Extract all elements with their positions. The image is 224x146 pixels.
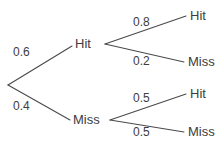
node-label-hit-hit: Hit (190, 9, 206, 22)
probability-label-miss-miss: 0.5 (133, 126, 150, 138)
node-label-miss-miss: Miss (188, 125, 215, 138)
probability-label-hit-hit: 0.8 (133, 16, 150, 28)
probability-tree-diagram: Hit Miss Hit Miss Hit Miss 0.6 0.4 0.8 0… (0, 0, 224, 146)
node-label-hit-miss: Miss (188, 55, 215, 68)
probability-label-miss-hit: 0.5 (133, 92, 150, 104)
node-label-hit-level1: Hit (75, 37, 91, 50)
probability-label-hit-miss: 0.2 (133, 55, 150, 67)
probability-label-miss: 0.4 (13, 100, 30, 112)
node-label-miss-level1: Miss (73, 113, 100, 126)
node-label-miss-hit: Hit (190, 87, 206, 100)
probability-label-hit: 0.6 (13, 46, 30, 58)
